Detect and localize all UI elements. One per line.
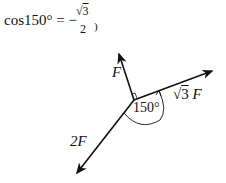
- vector-F: [119, 54, 134, 100]
- label-F: F: [112, 64, 121, 81]
- label-2F: 2F: [70, 133, 87, 150]
- angle-label: 150°: [133, 100, 160, 116]
- label-sqrt3F: √3 F: [173, 86, 202, 103]
